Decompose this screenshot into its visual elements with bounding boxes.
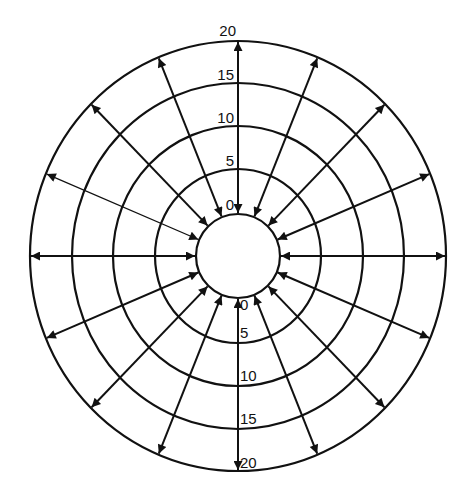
double-arrow-22.5 (255, 58, 318, 216)
double-arrow-337.5 (159, 58, 222, 216)
double-arrow-202.5 (159, 296, 222, 454)
double-arrow-225 (92, 286, 208, 407)
double-arrow-292.5 (47, 174, 199, 239)
double-arrow-112.5 (278, 273, 430, 338)
top-scale: 20 15 10 5 0 (217, 22, 236, 213)
bottom-scale-label-0: 0 (240, 296, 248, 313)
top-scale-label-20: 20 (219, 22, 236, 39)
radial-ring-diagram: 20 15 10 5 0 0 5 10 15 20 (0, 0, 473, 498)
top-scale-label-15: 15 (217, 66, 234, 83)
ring-0 (196, 214, 280, 298)
double-arrow-135 (268, 286, 384, 407)
double-arrow-45 (268, 105, 384, 226)
top-scale-label-0: 0 (226, 196, 234, 213)
bottom-scale-label-10: 10 (240, 367, 257, 384)
top-scale-label-10: 10 (217, 109, 234, 126)
bottom-scale-label-20: 20 (240, 454, 257, 471)
bottom-scale: 0 5 10 15 20 (240, 296, 257, 471)
double-arrow-157.5 (255, 296, 318, 454)
top-scale-label-5: 5 (226, 152, 234, 169)
double-arrow-315 (92, 105, 208, 226)
bottom-scale-label-5: 5 (240, 324, 248, 341)
bottom-scale-label-15: 15 (240, 410, 257, 427)
radial-arrows (31, 42, 445, 470)
double-arrow-67.5 (278, 174, 430, 239)
double-arrow-247.5 (47, 273, 199, 338)
